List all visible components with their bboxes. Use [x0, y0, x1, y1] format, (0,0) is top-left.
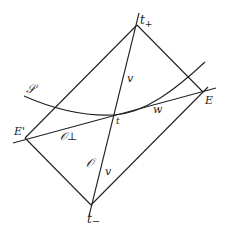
- edge-Eprime-tplus: [25, 25, 137, 138]
- label-t-plus: t+: [140, 13, 152, 29]
- hypersurface-curve: [24, 62, 205, 115]
- label-w: w: [153, 103, 163, 116]
- label-v-lower: v: [105, 165, 112, 178]
- label-O: 𝒪: [86, 156, 97, 170]
- edge-tminus-Eprime: [25, 138, 91, 205]
- label-t: t: [116, 116, 120, 126]
- label-surface: 𝒮: [26, 82, 39, 96]
- edge-tplus-E: [137, 25, 203, 92]
- diagram-svg: t+ t− t E E' 𝒮 v v w 𝒪⊥ 𝒪: [0, 0, 230, 232]
- label-v-upper: v: [127, 72, 134, 85]
- label-t-minus: t−: [87, 212, 100, 227]
- label-E-prime: E': [13, 125, 25, 138]
- label-O-perp: 𝒪⊥: [60, 130, 77, 143]
- label-E: E: [204, 94, 213, 107]
- spacetime-diagram: t+ t− t E E' 𝒮 v v w 𝒪⊥ 𝒪: [0, 0, 230, 232]
